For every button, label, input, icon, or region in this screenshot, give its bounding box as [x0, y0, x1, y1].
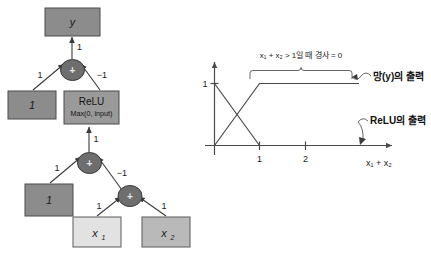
series-net-output-line [215, 84, 360, 146]
adder-mid: + [78, 153, 102, 174]
weight-adder-bottom-to-adder-mid: −1 [117, 168, 127, 178]
node-input-x1: x 1 [73, 217, 121, 247]
slope-zero-brace [250, 68, 352, 80]
network-diagram: 1 1 −1 1 1 −1 1 1 y + 1 [8, 8, 190, 247]
node-input-x1-label: x [91, 227, 98, 239]
node-bias-mid: 1 [25, 184, 73, 216]
figure-canvas: 1 1 −1 1 1 −1 1 1 y + 1 [0, 0, 431, 255]
series-relu-output-line [215, 84, 360, 146]
weight-bias-top-to-adder-top: 1 [37, 70, 42, 80]
adder-bottom-symbol: + [127, 191, 133, 202]
weight-x2-to-adder-bottom: 1 [161, 201, 166, 211]
plot-area: 1 1 2 x₁ + x₂ > 1일 때 경사 = 0 망(y)의 출력 ReL… [202, 50, 425, 168]
x-tick-2-label: 2 [303, 154, 308, 164]
node-input-x2-label: x [160, 227, 167, 239]
adder-bottom: + [118, 186, 142, 207]
slope-zero-note: x₁ + x₂ > 1일 때 경사 = 0 [260, 50, 343, 60]
adder-top: + [61, 60, 85, 81]
node-input-x1-subscript: 1 [102, 234, 106, 241]
adder-mid-symbol: + [87, 158, 93, 169]
weight-x1-to-adder-bottom: 1 [96, 201, 101, 211]
weight-relu-to-adder-top: −1 [97, 70, 107, 80]
node-bias-mid-label: 1 [46, 194, 52, 206]
node-bias-top-label: 1 [29, 99, 35, 111]
adder-top-symbol: + [70, 65, 76, 76]
node-bias-top: 1 [8, 91, 56, 119]
node-output-y: y [45, 8, 100, 36]
weight-adder-mid-to-relu: 1 [93, 134, 98, 144]
net-output-label: 망(y)의 출력 [373, 70, 424, 82]
x-axis-label: x₁ + x₂ [366, 158, 392, 168]
node-input-x2-subscript: 2 [170, 234, 175, 241]
weight-adder-top-to-output: 1 [77, 42, 82, 52]
weight-bias-mid-to-adder-mid: 1 [54, 163, 59, 173]
node-relu-sublabel: Max(0, input) [71, 109, 113, 118]
node-relu: ReLU Max(0, input) [64, 91, 119, 124]
relu-output-label: ReLU의 출력 [370, 114, 426, 126]
node-relu-label: ReLU [79, 96, 105, 107]
x-tick-1-label: 1 [257, 154, 262, 164]
node-input-x2: x 2 [142, 217, 190, 247]
y-tick-1-label: 1 [202, 79, 207, 89]
relu-output-leader-arrow [359, 137, 366, 145]
